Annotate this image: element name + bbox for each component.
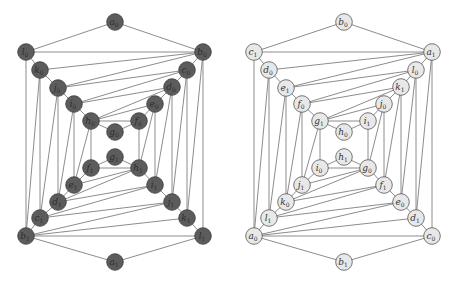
- node-g1: g1: [107, 149, 124, 166]
- node-h0: h0: [336, 124, 353, 141]
- right-graph-edges: [254, 22, 432, 262]
- node-g1: g1: [312, 113, 329, 130]
- node-b1: b1: [336, 254, 353, 271]
- left-graph: a0l0b0k0c0j0d0i0e0h0f0g0g1f1h1e1i1d1j1c1…: [18, 14, 212, 271]
- node-j1: j1: [164, 194, 181, 211]
- node-g0: g0: [107, 124, 124, 141]
- node-i0: i0: [66, 96, 83, 113]
- node-l0: l0: [18, 44, 35, 61]
- node-k1: k1: [179, 210, 196, 227]
- node-d1: d1: [408, 210, 425, 227]
- edge-b1-k1: [26, 218, 187, 236]
- node-c1: c1: [32, 210, 49, 227]
- edge-b1-a0: [254, 236, 344, 262]
- node-l1: l1: [261, 210, 278, 227]
- node-e1: e1: [278, 80, 295, 97]
- node-b1: b1: [18, 228, 35, 245]
- node-j0: j0: [376, 96, 393, 113]
- edge-b0-k0: [40, 52, 203, 70]
- node-g0: g0: [360, 160, 377, 177]
- right-graph: b0c1a1d0l0e1k1f0j0g1i1h0h1i0g0j1f1k0e0l1…: [246, 14, 441, 271]
- edge-a1-d0: [269, 52, 432, 70]
- node-l0: l0: [408, 62, 425, 79]
- node-j1: j1: [294, 177, 311, 194]
- graph-diagram: a0l0b0k0c0j0d0i0e0h0f0g0g1f1h1e1i1d1j1c1…: [0, 0, 458, 286]
- node-c0: c0: [179, 62, 196, 79]
- node-a1: a1: [107, 254, 124, 271]
- node-a0: a0: [107, 14, 124, 31]
- node-c0: c0: [424, 228, 441, 245]
- node-h1: h1: [131, 160, 148, 177]
- node-i0: i0: [312, 160, 329, 177]
- node-d1: d1: [50, 194, 67, 211]
- edge-a0-b0: [115, 22, 203, 52]
- node-f0: f0: [131, 113, 148, 130]
- node-e0: e0: [393, 194, 410, 211]
- node-h1: h1: [336, 149, 353, 166]
- node-k1: k1: [393, 79, 410, 96]
- node-f1: f1: [376, 177, 393, 194]
- edge-a0-d1: [254, 218, 416, 236]
- node-c1: c1: [246, 44, 263, 61]
- node-j0: j0: [50, 80, 67, 97]
- node-k0: k0: [278, 194, 295, 211]
- node-e0: e0: [147, 96, 164, 113]
- node-a1: a1: [424, 44, 441, 61]
- node-f0: f0: [294, 96, 311, 113]
- node-h0: h0: [83, 113, 100, 130]
- edge-a1-l1: [115, 236, 203, 262]
- node-l1: l1: [195, 228, 212, 245]
- left-graph-edges: [26, 22, 203, 262]
- node-i1: i1: [147, 177, 164, 194]
- node-d0: d0: [164, 79, 181, 96]
- node-i1: i1: [360, 113, 377, 130]
- node-b0: b0: [336, 14, 353, 31]
- edge-a0-l0: [26, 22, 115, 52]
- edge-b1-c0: [344, 236, 432, 262]
- node-b0: b0: [195, 44, 212, 61]
- node-e1: e1: [66, 177, 83, 194]
- edge-b0-a1: [344, 22, 432, 52]
- edge-a1-b1: [26, 236, 115, 262]
- edge-b0-c1: [254, 22, 344, 52]
- node-a0: a0: [246, 228, 263, 245]
- node-d0: d0: [261, 62, 278, 79]
- node-k0: k0: [32, 62, 49, 79]
- node-f1: f1: [83, 160, 100, 177]
